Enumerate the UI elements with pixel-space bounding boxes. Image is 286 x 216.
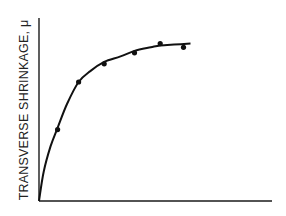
y-axis-label: TRANSVERSE SHRINKAGE, μ <box>17 20 31 201</box>
fitted-curve <box>39 44 191 201</box>
data-point <box>132 50 137 55</box>
chart-canvas: TRANSVERSE SHRINKAGE, μ <box>0 0 286 216</box>
data-point <box>76 79 81 84</box>
data-point <box>102 61 107 66</box>
data-point <box>181 45 186 50</box>
data-point <box>158 41 163 46</box>
data-point <box>55 127 60 132</box>
chart: TRANSVERSE SHRINKAGE, μ <box>0 0 286 216</box>
